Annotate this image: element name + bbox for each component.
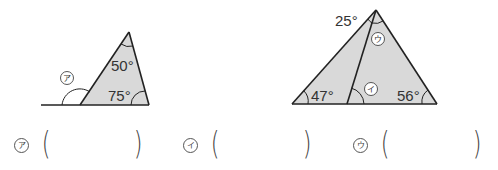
answer-a[interactable]: ア ( ) [14, 128, 144, 164]
open-paren: ( [211, 124, 220, 162]
angle-label-75: 75° [108, 87, 131, 104]
close-paren: ) [303, 124, 312, 162]
svg-text:ウ: ウ [374, 35, 382, 44]
answer-i[interactable]: イ ( ) [183, 128, 313, 164]
angle-label-47: 47° [311, 87, 334, 104]
geometry-figures: 50° 75° ア 25° 47° 56° ウ イ [0, 0, 498, 128]
circled-label-u-icon: ウ [353, 138, 368, 153]
open-paren: ( [381, 124, 390, 162]
open-paren: ( [42, 124, 51, 162]
circled-label-a-icon: ア [14, 138, 29, 153]
close-paren: ) [134, 124, 143, 162]
angle-label-56: 56° [397, 87, 420, 104]
answer-row: ア ( ) イ ( ) ウ ( ) [0, 128, 498, 164]
circled-label-i-icon: イ [183, 138, 198, 153]
triangle-figure-1: 50° 75° ア [41, 32, 149, 105]
svg-text:イ: イ [367, 85, 375, 94]
triangle-figure-2: 25° 47° 56° ウ イ [292, 10, 437, 104]
svg-text:ア: ア [63, 74, 71, 83]
angle-label-50: 50° [111, 57, 134, 74]
close-paren: ) [473, 124, 482, 162]
answer-u[interactable]: ウ ( ) [353, 128, 483, 164]
angle-label-25: 25° [335, 12, 358, 29]
